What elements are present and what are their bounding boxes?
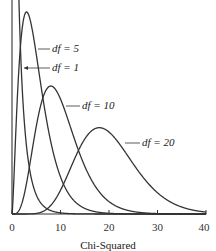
x-axis-label: Chi-Squared xyxy=(80,239,136,251)
curve-df5 xyxy=(12,12,206,214)
x-tick-40: 40 xyxy=(199,221,211,233)
x-tick-10: 10 xyxy=(55,221,67,233)
chi-squared-chart: 0 10 20 30 40 Chi-Squared df = 5 df = 1 … xyxy=(0,0,216,251)
x-tick-20: 20 xyxy=(104,221,116,233)
label-df1: df = 1 xyxy=(52,61,79,73)
x-tick-0: 0 xyxy=(9,221,15,233)
label-df10: df = 10 xyxy=(82,99,115,111)
x-tick-30: 30 xyxy=(152,221,164,233)
label-df20: df = 20 xyxy=(142,136,175,148)
label-df5: df = 5 xyxy=(52,42,79,54)
